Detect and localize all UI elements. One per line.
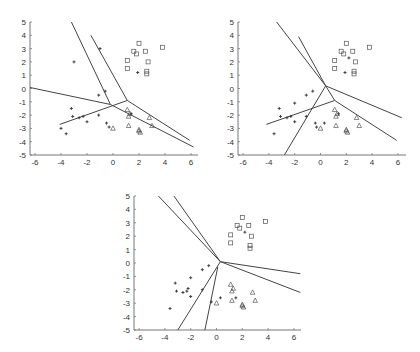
x-tick-label: -4 — [265, 158, 273, 167]
y-tick-label: -2 — [227, 111, 235, 120]
triangle-marker — [318, 126, 323, 130]
x-tick-label: 6 — [396, 158, 401, 167]
triangle-marker — [230, 289, 235, 293]
decision-boundary — [266, 100, 334, 124]
triangle-marker — [228, 282, 233, 286]
plus-marker — [305, 94, 308, 97]
plus-marker — [108, 126, 111, 129]
decision-boundary — [277, 22, 326, 86]
x-tick-label: -6 — [31, 158, 39, 167]
square-marker — [368, 45, 372, 49]
triangle-marker — [253, 298, 258, 302]
square-marker — [248, 244, 252, 248]
plus-marker — [185, 290, 188, 293]
x-tick-label: -6 — [136, 333, 144, 342]
plus-marker — [181, 291, 184, 294]
plus-marker — [97, 114, 100, 117]
triangle-marker — [334, 114, 339, 118]
y-tick-label: 2 — [22, 58, 27, 67]
x-tick-label: 0 — [111, 158, 116, 167]
square-marker — [132, 49, 136, 53]
triangle-marker — [357, 123, 362, 127]
y-tick-label: 2 — [230, 58, 235, 67]
scatter-plot-1: -6-4-20246543210-1-2-3-4-5 — [19, 18, 198, 167]
plus-marker — [105, 122, 108, 125]
plus-marker — [187, 287, 190, 290]
y-tick-label: 1 — [230, 71, 235, 80]
triangle-marker — [332, 107, 337, 111]
x-tick-label: -2 — [83, 158, 91, 167]
square-marker — [145, 72, 149, 76]
square-marker — [339, 49, 343, 53]
square-marker — [333, 59, 337, 63]
y-tick-label: 4 — [22, 31, 27, 40]
y-tick-label: -1 — [19, 98, 27, 107]
y-tick-label: 0 — [126, 259, 131, 268]
plus-marker — [175, 290, 178, 293]
x-tick-label: 2 — [240, 333, 245, 342]
y-tick-label: -4 — [19, 138, 27, 147]
y-tick-label: 0 — [230, 85, 235, 94]
y-tick-label: -4 — [227, 138, 235, 147]
square-marker — [160, 45, 164, 49]
x-tick-label: -4 — [161, 333, 169, 342]
triangle-marker — [334, 123, 339, 127]
decision-boundary — [178, 262, 221, 330]
triangle-marker — [214, 301, 219, 305]
plus-marker — [219, 296, 222, 299]
square-marker — [125, 59, 129, 63]
x-tick-label: 6 — [292, 333, 297, 342]
plus-marker — [293, 102, 296, 105]
y-tick-label: -4 — [123, 313, 131, 322]
square-marker — [249, 234, 253, 238]
y-tick-label: 5 — [126, 192, 131, 201]
y-tick-label: 0 — [22, 85, 27, 94]
square-marker — [247, 223, 251, 227]
decision-boundary — [127, 100, 189, 140]
y-tick-label: 4 — [230, 31, 235, 40]
y-tick-label: 3 — [22, 45, 27, 54]
plus-marker — [65, 132, 68, 135]
plus-marker — [243, 231, 246, 234]
y-tick-label: 1 — [126, 246, 131, 255]
decision-boundary — [91, 35, 127, 100]
plus-marker — [337, 112, 340, 115]
plus-marker — [207, 264, 210, 267]
x-tick-label: 6 — [189, 158, 194, 167]
decision-boundary — [335, 100, 397, 140]
scatter-plot-2: -6-4-20246543210-1-2-3-4-5 — [227, 18, 406, 167]
plus-marker — [315, 126, 318, 129]
y-tick-label: -3 — [19, 124, 27, 133]
plus-marker — [169, 307, 172, 310]
triangle-marker — [126, 123, 131, 127]
y-tick-label: 5 — [22, 18, 27, 27]
y-tick-label: -1 — [123, 272, 131, 281]
square-marker — [134, 52, 138, 56]
y-tick-label: 3 — [230, 45, 235, 54]
square-marker — [229, 241, 233, 245]
square-marker — [240, 215, 244, 219]
square-marker — [333, 67, 337, 71]
y-tick-label: -5 — [19, 151, 27, 160]
plus-marker — [71, 115, 74, 118]
plus-marker — [234, 296, 237, 299]
triangle-marker — [250, 290, 255, 294]
scatter-plots: -6-4-20246543210-1-2-3-4-5-6-4-202465432… — [0, 0, 420, 352]
y-tick-label: -3 — [123, 299, 131, 308]
plus-marker — [344, 71, 347, 74]
decision-boundary — [158, 196, 220, 262]
square-marker — [229, 233, 233, 237]
square-marker — [352, 69, 356, 73]
square-marker — [146, 60, 150, 64]
x-tick-label: 4 — [163, 158, 168, 167]
x-tick-label: 4 — [370, 158, 375, 167]
y-tick-label: -5 — [227, 151, 235, 160]
plus-marker — [347, 56, 350, 59]
plus-marker — [136, 71, 139, 74]
y-tick-label: 2 — [126, 232, 131, 241]
decision-boundary — [174, 196, 220, 262]
square-marker — [353, 60, 357, 64]
x-tick-label: -6 — [240, 158, 248, 167]
plus-marker — [311, 90, 314, 93]
y-tick-label: 4 — [126, 205, 131, 214]
